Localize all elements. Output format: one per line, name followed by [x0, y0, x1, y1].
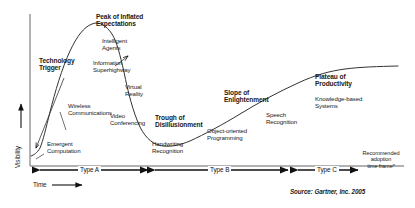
- adoption-band-label-type-c: Type C: [315, 166, 339, 173]
- technology-trigger-leader: [36, 78, 64, 148]
- adoption-band-label-type-a: Type A: [78, 166, 101, 173]
- adoption-band-label-type-b: Type B: [208, 166, 231, 173]
- phase-label-peak-of-inflated-expectations: Peak of Inflated Expectations: [96, 13, 143, 28]
- wireless-communications-leader: [60, 112, 66, 130]
- tech-label-knowledge-based-systems: Knowledge-based Systems: [315, 96, 362, 110]
- tech-label-speech-recognition: Speech Recognition: [266, 112, 297, 126]
- tech-label-wireless-communications: Wireless Communications: [68, 103, 112, 117]
- tech-label-emergent-computation: Emergent Computation: [47, 141, 80, 155]
- tech-label-intelligent-agents: Intelligent Agents: [102, 38, 127, 52]
- emergent-computation-leader: [36, 154, 44, 159]
- adoption-time-frame-legend: Recommended adoption time frame*: [352, 150, 410, 169]
- phase-label-plateau-of-productivity: Plateau of Productivity: [315, 73, 352, 88]
- phase-label-slope-of-enlightenment: Slope of Enlightenment: [224, 89, 269, 104]
- tech-label-video-conferencing: Video Conferencing: [110, 113, 145, 127]
- tech-label-information-superhighway: Information Superhighway: [93, 60, 130, 74]
- source-attribution: Source: Gartner, Inc. 2005: [290, 188, 365, 195]
- phase-label-technology-trigger: Technology Trigger: [39, 57, 75, 72]
- tech-label-handwriting-recognition: Handwriting Recognition: [152, 141, 183, 155]
- x-axis-title: Time: [33, 181, 47, 188]
- tech-label-virtual-reality: Virtual Reality: [125, 84, 143, 98]
- tech-label-object-oriented-programming: Object-oriented Programming: [207, 128, 247, 142]
- y-axis-title: Visibility: [14, 146, 21, 168]
- hype-cycle-chart: Visibility Time Technology Trigger Peak …: [0, 0, 415, 208]
- phase-label-trough-of-disillusionment: Trough of Disillusionment: [155, 114, 203, 129]
